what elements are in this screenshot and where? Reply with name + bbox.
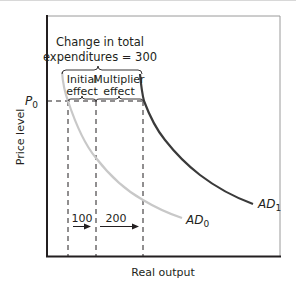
ad1-label: AD1 <box>257 197 281 213</box>
shift-multiplier-value: 200 <box>106 212 127 225</box>
y-axis-label: Price level <box>14 109 27 166</box>
initial-effect-line2: effect <box>66 85 98 98</box>
total-change-line2: expenditures = 300 <box>43 50 157 64</box>
ad-shift-diagram: Change in total expenditures = 300 Initi… <box>0 0 296 287</box>
ad1-curve <box>140 74 253 204</box>
total-change-line1: Change in total <box>56 35 144 49</box>
p0-label: P0 <box>25 94 38 110</box>
ad0-label: AD0 <box>185 213 209 229</box>
shift-initial-value: 100 <box>72 212 93 225</box>
x-axis-label: Real output <box>131 266 195 279</box>
multiplier-effect-line2: effect <box>103 85 135 98</box>
